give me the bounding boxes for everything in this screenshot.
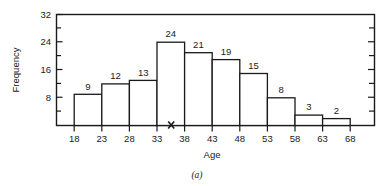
bar-53-58 <box>267 98 295 126</box>
bar-label-2: 13 <box>138 67 149 78</box>
x-tick-label-63: 63 <box>317 133 328 144</box>
bars-group <box>74 42 350 125</box>
y-tick-label-16: 16 <box>40 64 51 75</box>
bar-58-63 <box>295 115 323 125</box>
bar-label-1: 12 <box>110 70 121 81</box>
right-axis-ticks <box>368 28 375 111</box>
figure-caption: (a) <box>191 170 202 181</box>
bar-38-43 <box>185 53 213 126</box>
x-tick-label-33: 33 <box>152 133 163 144</box>
bar-63-68 <box>323 119 351 126</box>
bar-label-6: 15 <box>248 60 259 71</box>
x-tick-label-18: 18 <box>69 133 80 144</box>
x-tick-label-23: 23 <box>97 133 108 144</box>
bar-label-7: 8 <box>279 84 284 95</box>
x-tick-label-58: 58 <box>290 133 301 144</box>
bar-28-33 <box>129 80 157 125</box>
bar-23-28 <box>102 84 130 126</box>
histogram-chart: 8 16 24 32 Frequency 9 12 13 24 21 19 1 <box>0 0 391 186</box>
bar-18-23 <box>74 94 102 125</box>
figure-container: 8 16 24 32 Frequency 9 12 13 24 21 19 1 <box>0 0 391 186</box>
x-axis-tick-labels: 18 23 28 33 38 43 48 53 58 63 68 <box>69 133 356 144</box>
y-axis-title: Frequency <box>10 47 21 92</box>
bar-label-4: 21 <box>193 39 204 50</box>
bar-33-38 <box>157 42 185 125</box>
bar-label-5: 19 <box>221 46 232 57</box>
y-tick-label-32: 32 <box>40 9 51 20</box>
x-axis-title: Age <box>204 149 221 160</box>
bar-label-9: 2 <box>334 105 339 116</box>
bar-43-48 <box>212 60 240 126</box>
bar-label-0: 9 <box>85 81 90 92</box>
x-axis-ticks <box>74 126 350 132</box>
x-tick-label-43: 43 <box>207 133 218 144</box>
x-tick-label-53: 53 <box>262 133 273 144</box>
bar-label-3: 24 <box>166 28 177 39</box>
y-tick-label-24: 24 <box>40 36 51 47</box>
bar-48-53 <box>240 74 268 126</box>
x-tick-label-28: 28 <box>124 133 135 144</box>
x-tick-label-68: 68 <box>345 133 356 144</box>
x-tick-label-38: 38 <box>179 133 190 144</box>
y-tick-label-8: 8 <box>46 92 51 103</box>
x-tick-label-48: 48 <box>235 133 246 144</box>
bar-label-8: 3 <box>306 101 311 112</box>
